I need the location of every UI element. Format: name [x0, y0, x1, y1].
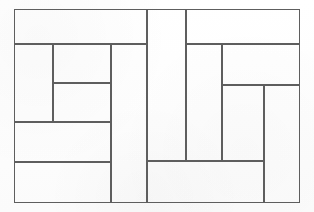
- cell-top-right-band: [186, 9, 300, 44]
- cell-right-upper-band: [222, 44, 300, 85]
- cell-left-band-middle: [14, 122, 111, 162]
- scanned-page: [0, 0, 314, 212]
- cell-right-far-tall: [264, 85, 300, 203]
- rectangle-dissection-figure: [0, 0, 314, 212]
- cell-left-inner-lower: [53, 83, 111, 122]
- cell-right-mid-tall: [222, 85, 264, 161]
- cell-left-band-bottom: [14, 162, 111, 203]
- cell-center-right-tall: [186, 44, 222, 161]
- cell-center-lower-wide: [147, 161, 264, 203]
- cell-left-inner-upper: [53, 44, 111, 83]
- cell-left-column-right: [111, 44, 147, 203]
- cell-top-center-tall: [147, 9, 186, 161]
- cell-top-left-band: [14, 9, 147, 44]
- cell-left-upper-narrow: [14, 44, 53, 122]
